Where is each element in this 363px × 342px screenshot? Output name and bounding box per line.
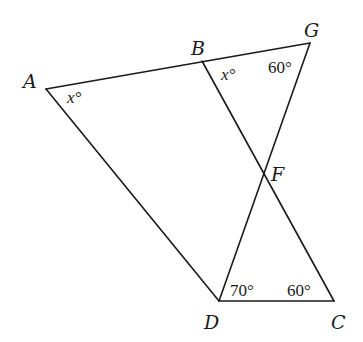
segment-AD bbox=[46, 89, 219, 301]
geometry-diagram: A B G F D C x° x° 60° 70° 60° bbox=[0, 0, 363, 342]
segment-BC bbox=[202, 61, 334, 301]
angle-label-b: x° bbox=[220, 65, 236, 84]
vertex-label-f: F bbox=[270, 163, 285, 185]
angle-label-a: x° bbox=[66, 88, 82, 107]
vertex-label-g: G bbox=[304, 19, 319, 41]
angle-label-c: 60° bbox=[287, 281, 311, 300]
angle-label-d: 70° bbox=[230, 281, 254, 300]
vertex-label-a: A bbox=[21, 70, 37, 92]
vertex-label-d: D bbox=[203, 311, 219, 333]
vertex-label-b: B bbox=[190, 37, 205, 59]
angle-label-g: 60° bbox=[268, 58, 292, 77]
vertex-label-c: C bbox=[331, 311, 346, 333]
